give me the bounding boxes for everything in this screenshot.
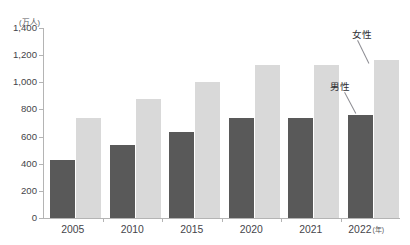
y-tick-mark (39, 164, 44, 165)
bar-male[interactable] (229, 118, 254, 218)
bar-group (110, 28, 161, 218)
y-tick-label: 600 (0, 131, 37, 142)
bar-group (169, 28, 220, 218)
y-tick-label: 1,400 (0, 22, 37, 33)
x-tick-mark (222, 218, 223, 222)
y-tick-label: 400 (0, 158, 37, 169)
bar-group (348, 28, 399, 218)
plot-area: 02004006008001,0001,2001,400 20052010201… (43, 28, 400, 218)
y-tick-label: 200 (0, 185, 37, 196)
x-category-label: 2005 (43, 224, 103, 235)
y-tick-mark (39, 28, 44, 29)
bar-female[interactable] (136, 99, 161, 218)
x-category-label: 2021 (281, 224, 341, 235)
y-tick-label: 800 (0, 103, 37, 114)
y-tick-label: 0 (0, 212, 37, 223)
bar-male[interactable] (169, 132, 194, 218)
cut-off-title-text (0, 0, 410, 5)
y-tick-mark (39, 109, 44, 110)
bar-group (50, 28, 101, 218)
y-tick-mark (39, 55, 44, 56)
y-tick-label: 1,200 (0, 49, 37, 60)
bar-female[interactable] (255, 65, 280, 218)
y-tick-label: 1,000 (0, 76, 37, 87)
bar-group (288, 28, 339, 218)
bar-female[interactable] (374, 60, 399, 218)
y-axis-line (43, 28, 44, 218)
x-category-label: 2022(年) (337, 224, 397, 235)
x-category-label: 2010 (103, 224, 163, 235)
x-tick-mark (281, 218, 282, 222)
x-tick-mark (341, 218, 342, 222)
x-axis-unit-label: (年) (372, 226, 384, 233)
bar-group (229, 28, 280, 218)
bar-male[interactable] (348, 115, 373, 218)
x-category-label: 2020 (222, 224, 282, 235)
bar-male[interactable] (110, 145, 135, 218)
x-tick-mark (162, 218, 163, 222)
bar-male[interactable] (288, 118, 313, 218)
bar-male[interactable] (50, 160, 75, 218)
annotation-female: 女性 (352, 27, 372, 41)
y-tick-mark (39, 82, 44, 83)
y-tick-mark (39, 218, 44, 219)
x-tick-mark (103, 218, 104, 222)
y-tick-mark (39, 191, 44, 192)
bar-female[interactable] (195, 82, 220, 218)
y-tick-mark (39, 137, 44, 138)
bar-female[interactable] (76, 118, 101, 218)
annotation-male: 男性 (330, 79, 350, 93)
x-category-label: 2015 (162, 224, 222, 235)
bar-chart: (万人) 02004006008001,0001,2001,400 200520… (0, 0, 410, 245)
